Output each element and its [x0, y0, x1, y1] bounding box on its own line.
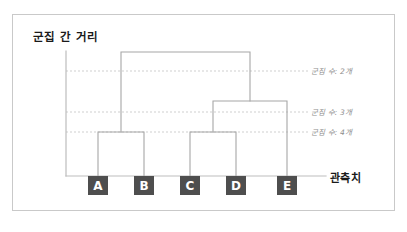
link-a-b — [98, 132, 144, 176]
link-c-d — [190, 132, 236, 176]
figure-page: 군집 간 거리 관측치 군집 수: 2개 군집 수: 3개 군집 수: 4개 A… — [0, 0, 407, 232]
link-ab-cde — [121, 52, 250, 132]
cut-label-2-clusters: 군집 수: 2개 — [311, 65, 352, 76]
leaf-node-b: B — [134, 176, 154, 195]
x-axis-title: 관측치 — [330, 169, 361, 185]
leaf-node-e: E — [277, 176, 297, 195]
cut-label-3-clusters: 군집 수: 3개 — [311, 106, 352, 117]
leaf-node-d: D — [226, 176, 246, 195]
cut-label-4-clusters: 군집 수: 4개 — [311, 126, 352, 137]
leaf-node-c: C — [180, 176, 200, 195]
y-axis-title: 군집 간 거리 — [33, 28, 98, 44]
leaf-node-a: A — [88, 176, 108, 195]
figure-caption — [22, 224, 242, 231]
